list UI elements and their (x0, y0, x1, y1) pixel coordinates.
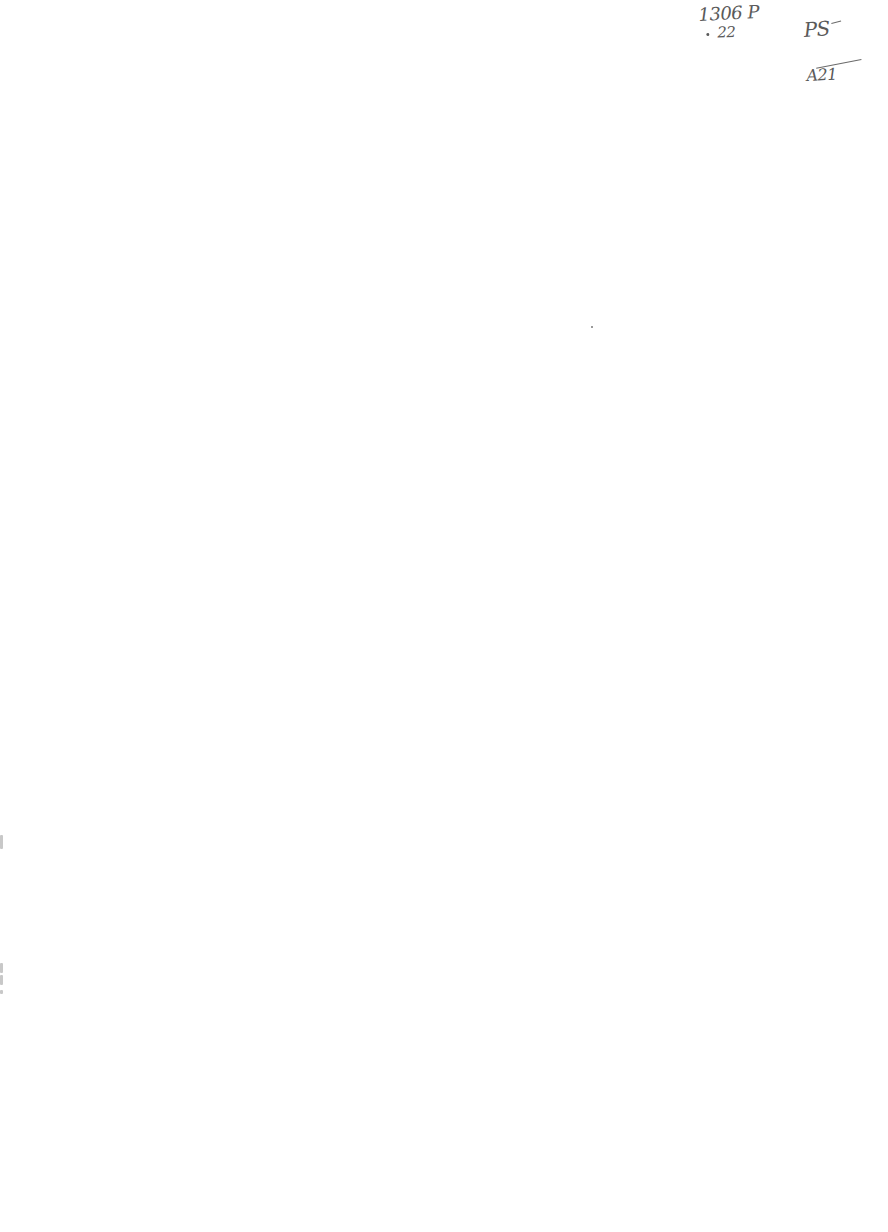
handwritten-reference-sub-text: 22 (717, 23, 736, 42)
ink-dot (706, 32, 709, 35)
handwritten-code: A21 (806, 66, 837, 84)
scan-edge-mark (0, 990, 3, 994)
code-overline (816, 59, 861, 69)
initials-stroke (831, 20, 841, 23)
handwritten-reference-number: 1306 P (698, 3, 760, 24)
handwritten-initials: PS (803, 17, 842, 40)
scan-edge-mark (0, 963, 3, 973)
handwritten-initials-text: PS (803, 16, 831, 42)
scan-speck (591, 326, 593, 328)
document-page: 1306 P 22 PS A21 (0, 0, 888, 1232)
handwritten-reference-sub: 22 (706, 25, 736, 41)
scan-edge-mark (0, 975, 3, 985)
scan-edge-mark (0, 835, 3, 849)
